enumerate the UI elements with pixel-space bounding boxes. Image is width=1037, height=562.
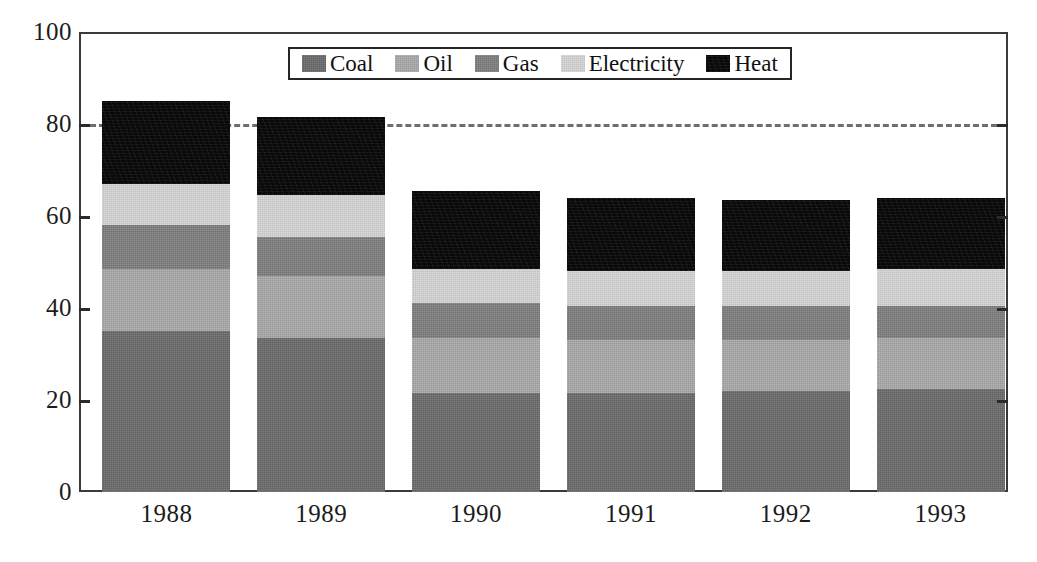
bar-segment-oil-1988[interactable] [102,269,230,331]
bar-segment-electricity-1992[interactable] [722,271,850,306]
y-tick-mark-right [997,216,1008,219]
bar-column-1988[interactable] [102,101,230,492]
legend-item-heat[interactable]: Heat [706,52,777,75]
x-tick-label-1992: 1992 [722,500,850,528]
bar-segment-oil-1989[interactable] [257,276,385,338]
legend-swatch-coal [302,55,326,72]
y-tick-mark-left [79,124,90,127]
bar-segment-coal-1989[interactable] [257,338,385,492]
legend-item-coal[interactable]: Coal [302,52,373,75]
y-tick-mark-left [79,216,90,219]
legend-swatch-oil [395,55,419,72]
bar-segment-coal-1991[interactable] [567,393,695,492]
legend-item-gas[interactable]: Gas [475,52,539,75]
legend-label-coal: Coal [330,52,373,75]
y-tick-label: 100 [0,19,72,44]
bar-segment-electricity-1993[interactable] [877,269,1005,306]
bar-column-1991[interactable] [567,198,695,492]
legend-swatch-gas [475,55,499,72]
y-tick-mark-left [79,400,90,403]
bar-segment-heat-1990[interactable] [412,191,540,269]
y-tick-mark-right [997,400,1008,403]
y-tick-mark-left [79,308,90,311]
bar-segment-heat-1989[interactable] [257,117,385,195]
bar-column-1993[interactable] [877,198,1005,492]
bar-segment-coal-1993[interactable] [877,389,1005,493]
y-tick-mark-right [997,308,1008,311]
bar-segment-gas-1991[interactable] [567,306,695,341]
y-axis: 020406080100 [0,0,72,562]
legend-label-electricity: Electricity [589,52,685,75]
x-tick-label-1989: 1989 [257,500,385,528]
legend-item-electricity[interactable]: Electricity [561,52,685,75]
bar-segment-gas-1990[interactable] [412,303,540,338]
y-tick-label: 80 [0,111,72,136]
legend-label-heat: Heat [734,52,777,75]
bar-segment-gas-1988[interactable] [102,225,230,269]
legend-item-oil[interactable]: Oil [395,52,452,75]
legend-label-gas: Gas [503,52,539,75]
bar-segment-gas-1989[interactable] [257,237,385,276]
x-axis: 198819891990199119921993 [79,500,1008,544]
bar-segment-heat-1991[interactable] [567,198,695,272]
bar-segment-gas-1992[interactable] [722,306,850,341]
x-tick-label-1991: 1991 [567,500,695,528]
bar-segment-electricity-1990[interactable] [412,269,540,304]
bar-segment-oil-1993[interactable] [877,338,1005,389]
legend-label-oil: Oil [423,52,452,75]
y-tick-label: 40 [0,295,72,320]
y-tick-label: 60 [0,203,72,228]
x-tick-label-1993: 1993 [877,500,1005,528]
y-tick-label: 20 [0,387,72,412]
bar-segment-heat-1993[interactable] [877,198,1005,269]
y-tick-label: 0 [0,479,72,504]
bar-segment-electricity-1991[interactable] [567,271,695,306]
legend-swatch-heat [706,55,730,72]
x-tick-label-1988: 1988 [102,500,230,528]
bars-layer [79,32,1008,492]
bar-segment-oil-1991[interactable] [567,340,695,393]
legend-swatch-electricity [561,55,585,72]
bar-column-1992[interactable] [722,200,850,492]
bar-segment-oil-1990[interactable] [412,338,540,393]
bar-segment-electricity-1989[interactable] [257,195,385,236]
bar-segment-coal-1990[interactable] [412,393,540,492]
bar-segment-heat-1992[interactable] [722,200,850,271]
y-tick-mark-right [997,124,1008,127]
x-tick-label-1990: 1990 [412,500,540,528]
bar-segment-coal-1988[interactable] [102,331,230,492]
chart-canvas: 020406080100 198819891990199119921993 Co… [0,0,1037,562]
bar-column-1989[interactable] [257,117,385,492]
bar-segment-electricity-1988[interactable] [102,184,230,225]
bar-segment-oil-1992[interactable] [722,340,850,391]
bar-segment-heat-1988[interactable] [102,101,230,184]
bar-segment-coal-1992[interactable] [722,391,850,492]
bar-column-1990[interactable] [412,191,540,492]
chart-legend: CoalOilGasElectricityHeat [288,47,792,80]
bar-segment-gas-1993[interactable] [877,306,1005,338]
